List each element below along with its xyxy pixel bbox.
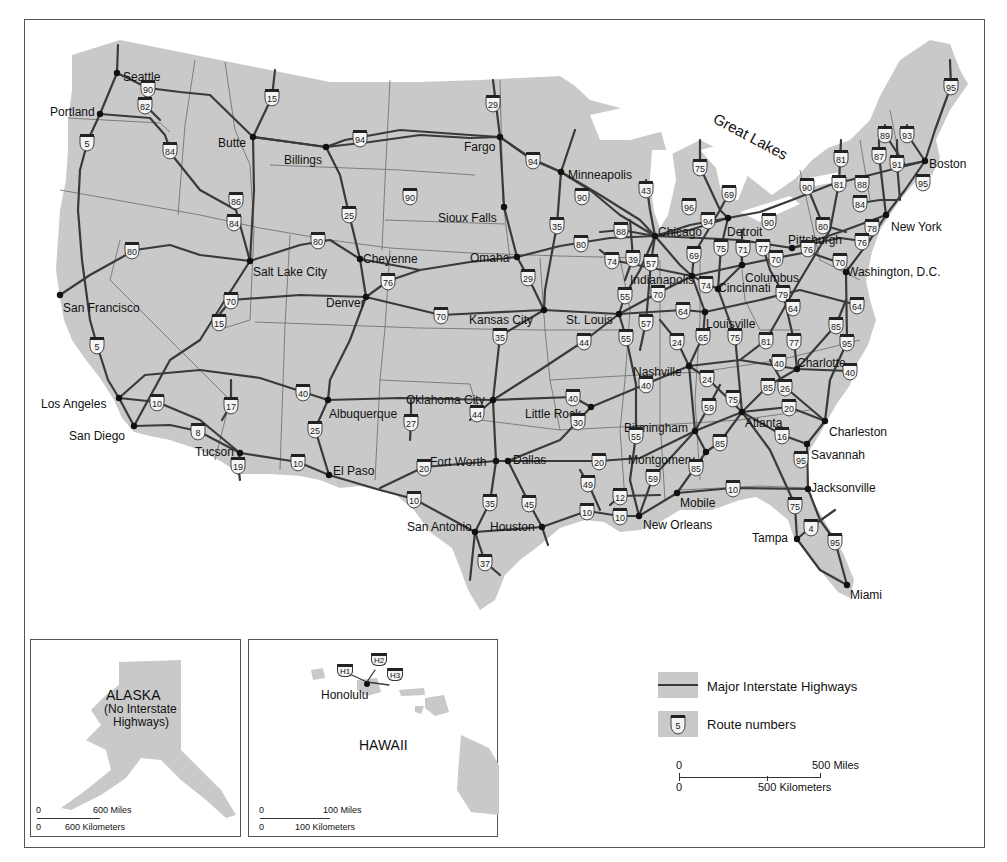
- route-number: 44: [472, 410, 482, 420]
- route-number: 77: [789, 338, 799, 348]
- route-shield-icon: 39: [626, 250, 640, 267]
- route-shield-icon: 94: [353, 130, 367, 147]
- svg-text:5: 5: [675, 721, 680, 731]
- hawaii-scale-bar: [260, 818, 330, 819]
- city-dot: [616, 311, 622, 317]
- route-shield-icon: 84: [227, 214, 241, 231]
- city-label: Jacksonville: [811, 481, 876, 495]
- route-shield-icon: 44: [470, 405, 484, 422]
- city-dot: [883, 212, 889, 218]
- route-number: 75: [790, 502, 800, 512]
- route-shield-icon: 45: [522, 495, 536, 512]
- route-number: 64: [678, 307, 688, 317]
- route-shield-icon: 19: [231, 457, 245, 474]
- route-number: 12: [615, 493, 625, 503]
- route-number: 40: [845, 368, 855, 378]
- route-shield-icon: 94: [526, 152, 540, 169]
- route-shield-icon: 59: [646, 469, 660, 486]
- city-marker: New York: [883, 212, 943, 234]
- route-shield-icon: 84: [163, 142, 177, 159]
- route-shield-icon: 57: [639, 314, 653, 331]
- route-shield-icon: 80: [311, 232, 325, 249]
- honolulu-dot: [364, 681, 370, 687]
- city-dot: [97, 111, 103, 117]
- route-number: 57: [646, 259, 656, 269]
- route-number: 88: [857, 180, 867, 190]
- route-shield-icon: 96: [682, 198, 696, 215]
- city-dot: [497, 134, 503, 140]
- route-shield-icon: 16: [775, 427, 789, 444]
- route-shield-icon: 44: [577, 333, 591, 350]
- route-number: 76: [803, 245, 813, 255]
- route-number: 85: [691, 464, 701, 474]
- route-number: 26: [780, 384, 790, 394]
- city-label: Miami: [850, 588, 882, 602]
- route-number: 89: [880, 131, 890, 141]
- route-shield-icon: 89: [878, 126, 892, 143]
- alaska-scale-km: 600 Kilometers: [65, 822, 125, 832]
- route-shield-icon: 57: [644, 254, 658, 271]
- route-number: 76: [857, 238, 867, 248]
- route-number: 10: [293, 459, 303, 469]
- route-shield-icon: 94: [701, 212, 715, 229]
- city-dot: [57, 292, 63, 298]
- route-number: 75: [728, 395, 738, 405]
- route-shield-icon: 35: [483, 494, 497, 511]
- alaska-scale-miles: 600 Miles: [93, 805, 132, 815]
- route-shield-icon: 40: [639, 376, 653, 393]
- city-label: San Diego: [69, 429, 125, 443]
- route-shield-icon: 85: [761, 378, 775, 395]
- route-shield-icon: 5: [80, 134, 94, 151]
- route-shield-icon: 90: [762, 213, 776, 230]
- city-marker: Charleston: [822, 418, 887, 439]
- city-label: El Paso: [333, 464, 375, 478]
- city-dot: [325, 397, 331, 403]
- route-number: 90: [143, 85, 153, 95]
- hawaii-inset: Honolulu HAWAII 0 100 Miles 0 100 Kilome…: [248, 639, 498, 837]
- city-dot: [725, 215, 731, 221]
- route-shield-icon: 85: [713, 434, 727, 451]
- route-number: 76: [383, 278, 393, 288]
- city-dot: [692, 428, 698, 434]
- route-number: 93: [902, 131, 912, 141]
- route-number: 87: [874, 152, 884, 162]
- city-label: Tampa: [752, 531, 788, 545]
- route-shield-icon: 4: [804, 519, 818, 536]
- city-label: Montgomery: [628, 453, 695, 467]
- route-shield-icon: 69: [687, 246, 701, 263]
- route-shield-icon: 55: [629, 427, 643, 444]
- route-number: 90: [802, 183, 812, 193]
- route-number: 95: [842, 339, 852, 349]
- hawaii-scale-km: 100 Kilometers: [295, 822, 355, 832]
- route-shield-icon: 84: [853, 195, 867, 212]
- route-number: 37: [480, 559, 490, 569]
- route-number: 25: [344, 211, 354, 221]
- route-number: 59: [704, 403, 714, 413]
- alaska-landmass: [61, 660, 236, 818]
- route-shield-icon: 71: [736, 240, 750, 257]
- alaska-note-line2: Highways): [113, 715, 169, 729]
- route-number: 74: [607, 257, 617, 267]
- route-number: 10: [728, 485, 738, 495]
- big-island: [457, 735, 499, 815]
- city-label: New York: [891, 220, 943, 234]
- route-number: 39: [628, 255, 638, 265]
- route-shield-icon: 10: [291, 454, 305, 471]
- route-shield-icon: 43: [639, 181, 653, 198]
- honolulu-label: Honolulu: [321, 688, 368, 702]
- route-shield-h2: H2: [371, 649, 387, 667]
- route-number: 75: [716, 244, 726, 254]
- route-number: 29: [488, 100, 498, 110]
- route-shield-icon: 77: [756, 239, 770, 256]
- route-shield-icon: 77: [787, 333, 801, 350]
- route-shield-icon: 64: [786, 299, 800, 316]
- route-shield-icon: 76: [801, 240, 815, 257]
- city-label: Fargo: [464, 140, 496, 154]
- route-number: 86: [231, 197, 241, 207]
- route-shield-icon: 82: [138, 97, 152, 114]
- city-dot: [804, 441, 810, 447]
- route-number: 24: [702, 375, 712, 385]
- city-marker: Oklahoma City: [406, 393, 496, 407]
- route-number: 81: [834, 180, 844, 190]
- route-shield-icon: 81: [759, 332, 773, 349]
